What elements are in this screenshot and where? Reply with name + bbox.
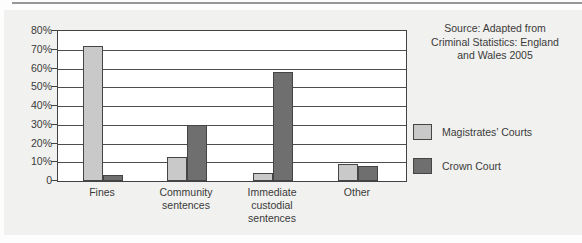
legend-label-crown: Crown Court xyxy=(442,160,501,172)
gridline xyxy=(58,125,406,126)
gridline xyxy=(58,144,406,145)
bar-crown xyxy=(103,175,123,181)
legend-item-crown: Crown Court xyxy=(413,158,532,174)
bar-magistrates xyxy=(83,46,103,181)
x-category-label: Community sentences xyxy=(138,186,234,212)
legend-label-magistrates: Magistrates’ Courts xyxy=(442,126,532,138)
gridline xyxy=(58,106,406,107)
x-category-label: Other xyxy=(309,186,405,199)
gridline xyxy=(58,50,406,51)
x-category-label: Fines xyxy=(54,186,150,199)
x-category-label: Immediate custodial sentences xyxy=(224,186,320,225)
bar-crown xyxy=(187,125,207,181)
crown-swatch xyxy=(413,158,432,174)
source-note: Source: Adapted from Criminal Statistics… xyxy=(412,22,578,63)
bar-magistrates xyxy=(167,157,187,181)
gridline xyxy=(58,87,406,88)
figure: 80%70%60%50%40%30%20%10%0 FinesCommunity… xyxy=(0,0,582,243)
bar-crown xyxy=(358,166,378,181)
magistrates-swatch xyxy=(413,124,432,140)
bar-magistrates xyxy=(338,164,358,181)
bar-crown xyxy=(273,72,293,181)
bar-magistrates xyxy=(253,173,273,181)
legend-item-magistrates: Magistrates’ Courts xyxy=(413,124,532,140)
gridline xyxy=(58,69,406,70)
legend: Magistrates’ Courts Crown Court xyxy=(413,124,532,192)
